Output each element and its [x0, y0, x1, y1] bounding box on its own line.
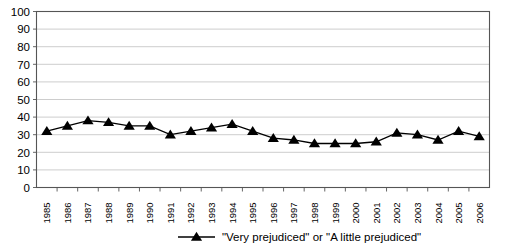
y-axis-tick-label: 60	[17, 76, 30, 88]
data-point-marker	[391, 128, 402, 137]
legend-label: "Very prejudiced" or "A little prejudice…	[222, 231, 421, 243]
data-point-marker	[453, 126, 464, 135]
y-axis-tick-label: 80	[17, 41, 30, 53]
y-axis-tick-label: 40	[17, 111, 30, 123]
y-axis-tick-label: 100	[11, 6, 30, 18]
y-gridlines: 1009080706050403020100	[11, 6, 490, 194]
y-axis-tick-label: 50	[17, 94, 30, 106]
y-axis-tick-label: 10	[17, 164, 30, 176]
data-point-marker	[329, 138, 340, 147]
x-axis-tick-label: 1985	[41, 202, 52, 223]
x-axis-tick-label: 2000	[350, 202, 361, 223]
x-axis-tick-label: 1997	[288, 202, 299, 223]
y-axis-tick-label: 20	[17, 147, 30, 159]
y-axis-tick-label: 90	[17, 23, 30, 35]
x-axis-tick-label: 1998	[309, 202, 320, 223]
line-chart: 1009080706050403020100198519861987198819…	[0, 0, 506, 251]
series-markers	[41, 115, 485, 147]
x-axis-labels: 1985198619871988198919901991199219931994…	[41, 188, 484, 224]
x-axis-tick-label: 1992	[185, 202, 196, 223]
x-axis-tick-label: 1986	[62, 202, 73, 223]
x-axis-tick-label: 2002	[391, 202, 402, 223]
x-axis-tick-label: 2004	[433, 202, 444, 223]
x-axis-tick-label: 1989	[124, 202, 135, 223]
y-axis-tick-label: 70	[17, 59, 30, 71]
x-axis-tick-label: 1993	[206, 202, 217, 223]
x-axis-tick-label: 1995	[247, 202, 258, 223]
data-point-marker	[227, 119, 238, 128]
chart-container: 1009080706050403020100198519861987198819…	[0, 0, 506, 251]
x-axis-tick-label: 1987	[82, 202, 93, 223]
x-axis-tick-label: 1994	[227, 202, 238, 223]
legend-marker-swatch	[191, 232, 202, 241]
data-point-marker	[144, 121, 155, 130]
x-axis-tick-label: 1990	[144, 202, 155, 223]
x-axis-tick-label: 2005	[453, 202, 464, 223]
data-point-marker	[371, 137, 382, 146]
x-axis-tick-label: 2006	[474, 202, 485, 223]
x-axis-tick-label: 2003	[412, 202, 423, 223]
x-axis-tick-label: 1996	[268, 202, 279, 223]
x-axis-tick-label: 2001	[371, 202, 382, 223]
x-axis-tick-label: 1991	[165, 202, 176, 223]
x-axis-tick-label: 1999	[330, 202, 341, 223]
y-axis-tick-label: 0	[24, 182, 30, 194]
legend: "Very prejudiced" or "A little prejudice…	[178, 231, 421, 243]
x-axis-tick-label: 1988	[103, 202, 114, 223]
y-axis-tick-label: 30	[17, 129, 30, 141]
